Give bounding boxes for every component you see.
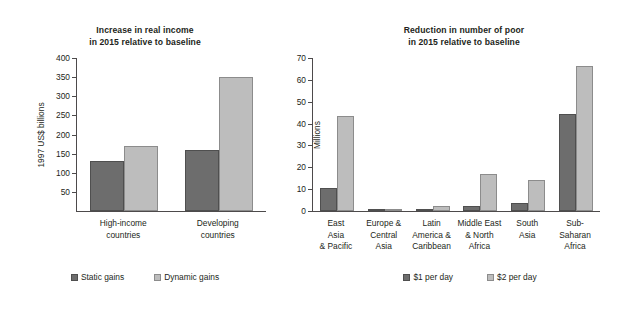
y-tick: [72, 77, 76, 78]
chart-panel-right: Reduction in number of poor in 2015 rela…: [290, 0, 628, 314]
chart-panel-left: Increase in real income in 2015 relative…: [0, 0, 290, 314]
plot-area-left: 50100150200250300350400: [76, 58, 266, 212]
bar: [480, 174, 497, 211]
plot-area-right: 010203040506070: [312, 58, 600, 212]
x-category-label: LatinAmerica &Caribbean: [408, 218, 456, 253]
y-tick: [308, 189, 312, 190]
x-category-label-line: Europe &: [360, 218, 408, 230]
y-tick-label: 200: [56, 130, 70, 140]
y-tick-label: 50: [297, 97, 306, 107]
y-tick-label: 100: [56, 168, 70, 178]
legend-left: Static gains Dynamic gains: [0, 272, 290, 282]
legend-swatch-dollar2-per-day: [487, 274, 494, 281]
x-category-label-line: Middle East: [456, 218, 504, 230]
x-category-label-line: High-income: [76, 218, 171, 230]
bar: [528, 180, 545, 211]
bar: [90, 161, 124, 211]
x-category-label-line: Central: [360, 230, 408, 242]
y-tick: [72, 173, 76, 174]
y-tick: [308, 211, 312, 212]
legend-label-static-gains: Static gains: [81, 272, 124, 282]
y-tick-label: 20: [297, 162, 306, 172]
bars-layer-right: [313, 58, 600, 211]
y-tick-label: 250: [56, 110, 70, 120]
x-category-label-line: countries: [76, 230, 171, 242]
bar: [463, 206, 480, 211]
bar: [433, 206, 450, 211]
y-tick: [308, 102, 312, 103]
y-tick-label: 150: [56, 149, 70, 159]
y-tick-label: 40: [297, 119, 306, 129]
y-tick: [308, 124, 312, 125]
x-category-label-line: Asia: [360, 241, 408, 253]
y-tick-label: 50: [61, 187, 70, 197]
bar: [337, 116, 354, 211]
x-category-label-line: Developing: [171, 218, 266, 230]
legend-swatch-static-gains: [71, 274, 78, 281]
x-category-label-line: Sub-: [551, 218, 599, 230]
y-tick-label: 60: [297, 75, 306, 85]
bar: [559, 114, 576, 211]
y-tick-label: 350: [56, 72, 70, 82]
x-category-label-line: countries: [171, 230, 266, 242]
y-tick-label: 70: [297, 53, 306, 63]
legend-label-dynamic-gains: Dynamic gains: [164, 272, 219, 282]
x-category-label: Developingcountries: [171, 218, 266, 241]
x-category-label-line: Caribbean: [408, 241, 456, 253]
x-category-label-line: East: [312, 218, 360, 230]
y-axis-title-left: 1997 US$ billions: [36, 80, 46, 190]
x-category-label: High-incomecountries: [76, 218, 171, 241]
y-tick: [308, 167, 312, 168]
x-category-label: Europe &CentralAsia: [360, 218, 408, 253]
y-tick-label: 0: [301, 206, 306, 216]
legend-item-dollar1-per-day[interactable]: $1 per day: [403, 272, 453, 282]
y-tick: [72, 115, 76, 116]
x-category-label: Sub-SaharanAfrica: [551, 218, 599, 253]
y-tick-label: 300: [56, 91, 70, 101]
x-category-label-line: & North: [456, 230, 504, 242]
legend-item-static-gains[interactable]: Static gains: [71, 272, 124, 282]
legend-swatch-dollar1-per-day: [403, 274, 410, 281]
chart-title-left-line-2: in 2015 relative to baseline: [0, 36, 290, 48]
bar: [185, 150, 219, 211]
x-category-label-line: Africa: [456, 241, 504, 253]
legend-item-dynamic-gains[interactable]: Dynamic gains: [154, 272, 219, 282]
y-tick: [308, 58, 312, 59]
y-tick: [308, 80, 312, 81]
y-tick-label: 30: [297, 140, 306, 150]
y-tick: [72, 58, 76, 59]
x-category-label-line: Saharan: [551, 230, 599, 242]
legend-right: $1 per day $2 per day: [312, 272, 628, 282]
chart-title-left-line-1: Increase in real income: [0, 24, 290, 36]
x-category-label-line: Asia: [312, 230, 360, 242]
x-axis-line-right: [312, 211, 600, 212]
x-category-label-line: South: [503, 218, 551, 230]
chart-title-right-line-2: in 2015 relative to baseline: [300, 36, 628, 48]
legend-swatch-dynamic-gains: [154, 274, 161, 281]
x-axis-line-left: [76, 211, 266, 212]
bar: [511, 203, 528, 211]
y-tick-label: 400: [56, 53, 70, 63]
y-tick: [72, 135, 76, 136]
legend-label-dollar1-per-day: $1 per day: [413, 272, 453, 282]
x-category-label: EastAsia& Pacific: [312, 218, 360, 253]
y-tick: [308, 145, 312, 146]
bars-layer-left: [77, 58, 266, 211]
bar: [124, 146, 158, 211]
bar: [219, 77, 253, 211]
bar: [320, 188, 337, 211]
figure-container: Increase in real income in 2015 relative…: [0, 0, 628, 314]
legend-item-dollar2-per-day[interactable]: $2 per day: [487, 272, 537, 282]
x-category-label-line: & Pacific: [312, 241, 360, 253]
y-tick-label: 10: [297, 184, 306, 194]
chart-title-right-line-1: Reduction in number of poor: [300, 24, 628, 36]
y-tick: [72, 192, 76, 193]
bar: [368, 209, 385, 211]
legend-label-dollar2-per-day: $2 per day: [497, 272, 537, 282]
bar: [416, 209, 433, 211]
x-category-label-line: Asia: [503, 230, 551, 242]
x-category-label: SouthAsia: [503, 218, 551, 241]
chart-title-right: Reduction in number of poor in 2015 rela…: [300, 24, 628, 49]
x-category-label-line: Africa: [551, 241, 599, 253]
chart-title-left: Increase in real income in 2015 relative…: [0, 24, 290, 49]
